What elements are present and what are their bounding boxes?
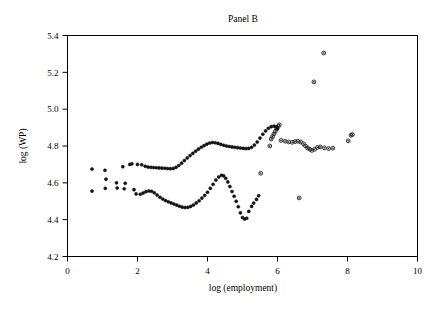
data-point xyxy=(257,194,260,197)
data-point xyxy=(198,199,201,202)
data-point xyxy=(203,194,206,197)
page-title: Panel B xyxy=(228,14,258,24)
y-axis-label: log (WP) xyxy=(18,128,29,163)
data-point xyxy=(132,188,135,191)
data-point xyxy=(191,152,194,155)
data-point xyxy=(177,164,180,167)
data-point xyxy=(200,197,203,200)
data-point-center xyxy=(272,136,273,137)
data-point xyxy=(103,169,106,172)
data-point xyxy=(116,186,119,189)
data-point xyxy=(256,140,259,143)
data-point-center xyxy=(260,173,261,174)
x-tick-label: 2 xyxy=(135,266,140,276)
data-point-center xyxy=(313,81,314,82)
data-point-center xyxy=(269,145,270,146)
data-point xyxy=(153,191,156,194)
scatter-plot: Panel B 0246810 4.24.44.64.85.05.25.4 lo… xyxy=(0,0,444,311)
data-point xyxy=(209,187,212,190)
data-point xyxy=(250,205,253,208)
data-point-center xyxy=(303,143,304,144)
data-point xyxy=(136,163,139,166)
data-point-center xyxy=(271,138,272,139)
data-point xyxy=(224,177,227,180)
y-tick-label: 5.2 xyxy=(47,68,58,78)
data-point xyxy=(135,192,138,195)
data-point xyxy=(228,185,231,188)
data-point-center xyxy=(300,141,301,142)
figure-background xyxy=(0,0,444,311)
data-point xyxy=(195,201,198,204)
data-point xyxy=(90,190,93,193)
data-point xyxy=(121,165,124,168)
data-point xyxy=(250,146,253,149)
data-point xyxy=(239,211,242,214)
data-point-center xyxy=(288,141,289,142)
data-point-center xyxy=(332,148,333,149)
data-point-center xyxy=(348,140,349,141)
data-point xyxy=(230,190,233,193)
data-point-center xyxy=(352,134,353,135)
data-point-center xyxy=(297,141,298,142)
data-point xyxy=(252,202,255,205)
data-point xyxy=(253,144,256,147)
data-point xyxy=(183,159,186,162)
y-tick-label: 4.8 xyxy=(47,141,59,151)
data-point xyxy=(261,133,264,136)
y-tick-label: 4.6 xyxy=(47,178,59,188)
data-point xyxy=(90,167,93,170)
data-point xyxy=(180,162,183,165)
data-point xyxy=(226,180,229,183)
data-point-center xyxy=(311,150,312,151)
data-point xyxy=(235,200,238,203)
data-point xyxy=(264,129,267,132)
data-point-center xyxy=(285,141,286,142)
data-point xyxy=(245,217,248,220)
data-point xyxy=(214,179,217,182)
data-point xyxy=(188,154,191,157)
data-point xyxy=(104,178,107,181)
x-tick-label: 8 xyxy=(345,266,350,276)
data-point-center xyxy=(279,124,280,125)
data-point xyxy=(194,150,197,153)
chart-figure: Panel B 0246810 4.24.44.64.85.05.25.4 lo… xyxy=(0,0,444,311)
x-tick-label: 4 xyxy=(205,266,210,276)
data-point xyxy=(233,195,236,198)
data-point xyxy=(156,193,159,196)
data-point xyxy=(123,187,126,190)
x-tick-label: 0 xyxy=(65,266,70,276)
data-point xyxy=(192,203,195,206)
data-point-center xyxy=(299,197,300,198)
x-tick-label: 6 xyxy=(275,266,280,276)
data-point-center xyxy=(280,140,281,141)
data-point-center xyxy=(324,147,325,148)
data-point xyxy=(115,181,118,184)
data-point-center xyxy=(317,147,318,148)
x-axis-label: log (employment) xyxy=(209,283,277,294)
data-point-center xyxy=(273,133,274,134)
data-point xyxy=(158,196,161,199)
data-point-center xyxy=(275,131,276,132)
data-point xyxy=(197,148,200,151)
data-point xyxy=(174,166,177,169)
data-point-center xyxy=(292,142,293,143)
data-point xyxy=(140,163,143,166)
data-point-center xyxy=(328,148,329,149)
data-point-center xyxy=(320,146,321,147)
data-point xyxy=(206,191,209,194)
data-point xyxy=(258,137,261,140)
data-point xyxy=(217,175,220,178)
data-point-center xyxy=(314,149,315,150)
data-point xyxy=(237,205,240,208)
y-tick-label: 5.0 xyxy=(47,104,59,114)
data-point xyxy=(104,187,107,190)
data-point xyxy=(130,162,133,165)
data-point xyxy=(124,182,127,185)
x-tick-label: 10 xyxy=(413,266,423,276)
data-point xyxy=(255,198,258,201)
y-tick-label: 4.2 xyxy=(47,252,58,262)
data-point xyxy=(212,183,215,186)
data-point-center xyxy=(294,141,295,142)
data-point-center xyxy=(323,52,324,53)
data-point xyxy=(200,146,203,149)
